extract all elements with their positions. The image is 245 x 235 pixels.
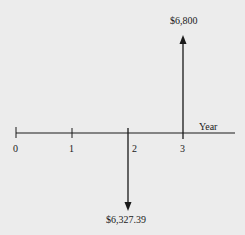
cash-flow-diagram	[0, 0, 245, 235]
inflow-amount-label: $6,800	[170, 16, 198, 26]
tick-label-1: 1	[69, 144, 74, 154]
inflow-arrowhead-icon	[180, 35, 187, 44]
outflow-amount-label: $6,327.39	[106, 215, 146, 225]
tick-label-0: 0	[13, 144, 18, 154]
axis-label: Year	[199, 122, 217, 132]
tick-label-3: 3	[180, 144, 185, 154]
tick-label-2: 2	[132, 144, 137, 154]
outflow-arrowhead-icon	[125, 202, 132, 211]
